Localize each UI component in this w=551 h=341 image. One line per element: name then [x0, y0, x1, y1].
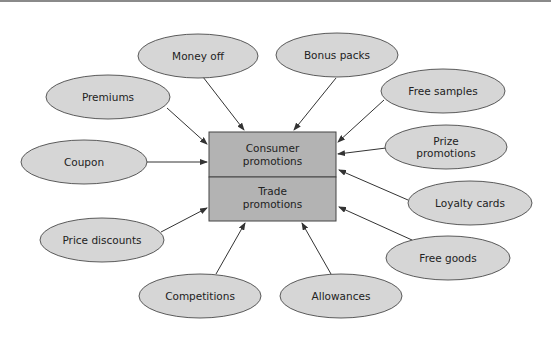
node-price-discounts: Price discounts	[40, 218, 164, 262]
trade-label-line2: promotions	[243, 198, 302, 210]
node-label: Allowances	[312, 290, 371, 302]
arrow-allowances	[302, 223, 331, 274]
arrow-premiums	[167, 108, 207, 144]
center-box: Consumer promotions Trade promotions	[209, 132, 336, 221]
promotions-diagram: Consumer promotions Trade promotions Mon…	[0, 0, 551, 341]
consumer-label-line2: promotions	[243, 155, 302, 167]
node-label-line2: promotions	[416, 147, 475, 159]
arrow-loyalty-cards	[339, 170, 408, 200]
diagram-canvas: Consumer promotions Trade promotions Mon…	[0, 0, 551, 341]
arrow-price-discounts	[161, 208, 207, 232]
node-coupon: Coupon	[21, 140, 147, 184]
arrow-prize-promotions	[338, 148, 386, 154]
node-label: Competitions	[165, 290, 235, 302]
arrow-free-samples	[338, 100, 384, 142]
node-money-off: Money off	[138, 34, 258, 78]
node-label-line1: Prize	[433, 135, 458, 147]
node-label: Coupon	[64, 156, 104, 168]
arrow-free-goods	[339, 207, 412, 240]
node-loyalty-cards: Loyalty cards	[408, 181, 532, 225]
node-label: Bonus packs	[304, 49, 370, 61]
consumer-label-line1: Consumer	[246, 142, 300, 154]
node-bonus-packs: Bonus packs	[276, 33, 398, 77]
node-label: Price discounts	[62, 234, 141, 246]
arrow-competitions	[216, 223, 245, 274]
node-label: Loyalty cards	[435, 197, 505, 209]
node-premiums: Premiums	[46, 75, 170, 119]
node-allowances: Allowances	[280, 274, 402, 318]
node-free-goods: Free goods	[386, 236, 510, 280]
node-label: Free goods	[419, 252, 476, 264]
trade-label-line1: Trade	[257, 185, 287, 197]
node-prize-promotions: Prize promotions	[385, 125, 507, 169]
node-free-samples: Free samples	[381, 69, 505, 113]
arrow-bonus-packs	[294, 78, 336, 130]
node-label: Money off	[172, 50, 225, 62]
arrow-money-off	[203, 77, 244, 130]
node-competitions: Competitions	[139, 274, 261, 318]
node-label: Free samples	[408, 85, 477, 97]
node-label: Premiums	[82, 91, 134, 103]
